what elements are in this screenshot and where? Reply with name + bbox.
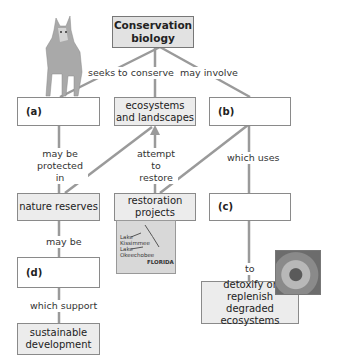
link-may-involve: may involve bbox=[180, 67, 238, 79]
node-sustainable-development: sustainable development bbox=[17, 323, 100, 355]
link-seeks-to-conserve: seeks to conserve bbox=[88, 67, 174, 79]
florida-map-image: Lake Kissimmee Lake Okeechobee FLORIDA bbox=[116, 220, 176, 274]
link-to: to bbox=[245, 263, 255, 275]
node-restoration-projects: restoration projects bbox=[114, 193, 196, 221]
wolf-image bbox=[38, 12, 90, 98]
node-c: (c) bbox=[209, 193, 291, 221]
map-label-lake-okeechobee: Lake Okeechobee bbox=[120, 246, 146, 258]
node-d: (d) bbox=[17, 257, 100, 288]
map-label-lake-kissimmee: Lake Kissimmee bbox=[120, 234, 142, 246]
node-nature-reserves: nature reserves bbox=[17, 193, 100, 221]
link-may-be: may be bbox=[46, 236, 82, 248]
map-label-florida: FLORIDA bbox=[147, 259, 174, 265]
node-a: (a) bbox=[17, 97, 100, 126]
link-may-be-protected-in: may be protected in bbox=[32, 148, 88, 184]
link-which-uses: which uses bbox=[227, 152, 279, 164]
node-b: (b) bbox=[209, 97, 291, 126]
link-attempt-to-restore: attempt to restore bbox=[134, 148, 178, 184]
link-which-support: which support bbox=[30, 300, 97, 312]
flower-image bbox=[275, 250, 321, 295]
node-conservation-biology: Conservation biology bbox=[112, 16, 194, 48]
node-ecosystems-landscapes: ecosystems and landscapes bbox=[114, 97, 196, 126]
